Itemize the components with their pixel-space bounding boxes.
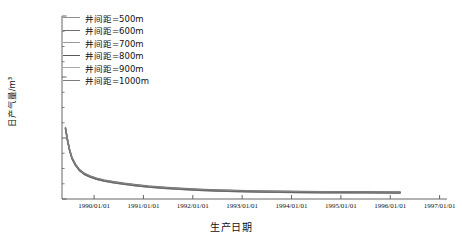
series-line xyxy=(65,128,400,192)
legend-line-swatch xyxy=(63,80,80,81)
legend-item[interactable]: 井间距=600m xyxy=(63,25,149,37)
x-tick-label: 1991/01/01 xyxy=(127,202,159,210)
series-line xyxy=(65,127,400,191)
legend-line-swatch xyxy=(63,30,80,31)
x-tick-label: 1996/01/01 xyxy=(374,202,406,210)
legend-line-swatch xyxy=(63,55,80,56)
legend-item[interactable]: 井间距=900m xyxy=(63,62,149,74)
x-tick-label: 1993/01/01 xyxy=(226,202,258,210)
legend-item-label: 井间距=600m xyxy=(85,24,144,36)
x-axis-tick-labels: 1990/01/011991/01/011992/01/011993/01/01… xyxy=(0,202,462,214)
legend-item-label: 井间距=500m xyxy=(85,12,144,24)
x-tick-label: 1990/01/01 xyxy=(78,202,110,210)
legend-item[interactable]: 井间距=700m xyxy=(63,37,149,49)
x-axis-title: 生产日期 xyxy=(0,219,462,234)
legend-item-label: 井间距=700m xyxy=(85,37,144,49)
legend-item-label: 井间距=1000m xyxy=(85,74,149,86)
y-axis-title: 日产气量/m³ xyxy=(5,47,17,157)
x-tick-label: 1995/01/01 xyxy=(325,202,357,210)
x-tick-label: 1997/01/01 xyxy=(424,202,456,210)
legend-line-swatch xyxy=(63,67,80,68)
series-line xyxy=(65,129,400,193)
series-line xyxy=(65,128,400,192)
legend-item[interactable]: 井间距=500m xyxy=(63,12,149,24)
legend-line-swatch xyxy=(63,17,80,18)
chart-legend: 井间距=500m井间距=600m井间距=700m井间距=800m井间距=900m… xyxy=(63,12,149,86)
legend-line-swatch xyxy=(63,42,80,43)
chart-figure: 01×1052×1053×105 1990/01/011991/01/01199… xyxy=(0,0,462,241)
legend-item-label: 井间距=900m xyxy=(85,62,144,74)
legend-item[interactable]: 井间距=800m xyxy=(63,50,149,62)
x-tick-label: 1992/01/01 xyxy=(177,202,209,210)
x-tick-label: 1994/01/01 xyxy=(276,202,308,210)
legend-item-label: 井间距=800m xyxy=(85,49,144,61)
legend-item[interactable]: 井间距=1000m xyxy=(63,75,149,87)
